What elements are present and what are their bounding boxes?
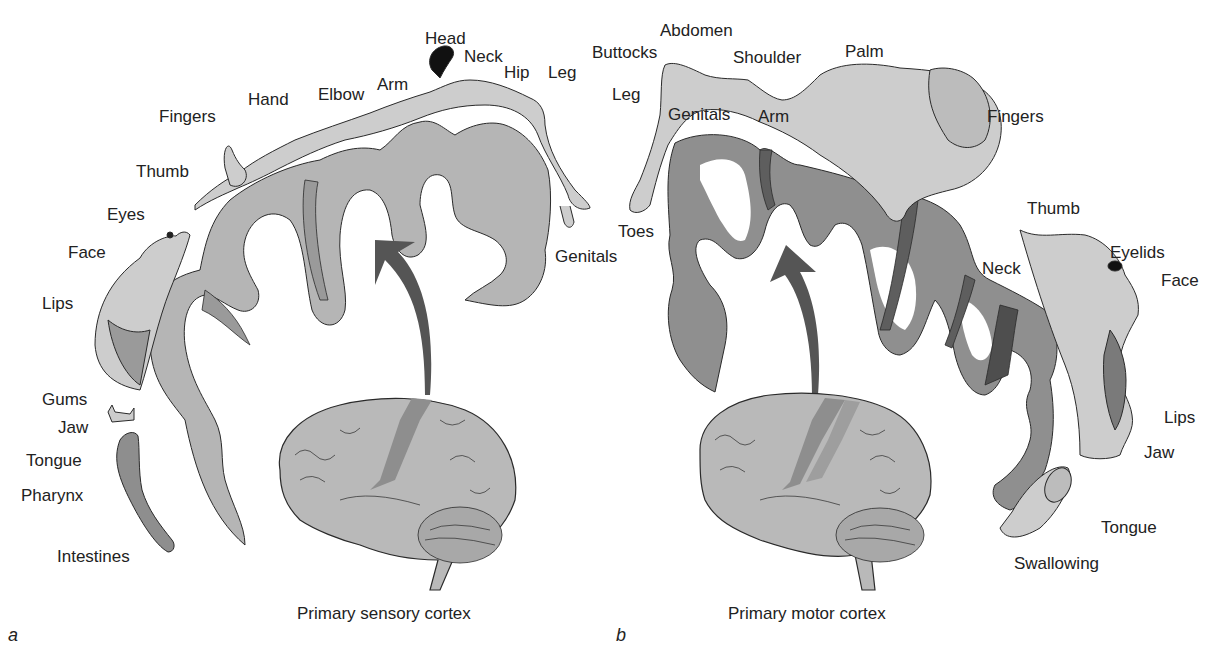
body-part-label: Arm: [377, 76, 408, 93]
body-part-label: Shoulder: [733, 49, 801, 66]
body-part-label: Head: [425, 30, 466, 47]
body-part-label: Intestines: [57, 548, 130, 565]
sensory-arrow: [375, 240, 431, 395]
body-part-label: Hip: [504, 64, 530, 81]
body-part-label: Toes: [618, 223, 654, 240]
motor-caption: Primary motor cortex: [728, 604, 886, 624]
body-part-label: Hand: [248, 91, 289, 108]
body-part-label: Thumb: [136, 163, 189, 180]
body-part-label: Genitals: [668, 106, 730, 123]
motor-arrow: [770, 245, 819, 395]
motor-brain: [700, 393, 931, 590]
body-part-label: Lips: [42, 295, 73, 312]
body-part-label: Face: [1161, 272, 1199, 289]
body-part-label: Arm: [758, 108, 789, 125]
body-part-label: Eyelids: [1110, 244, 1165, 261]
body-part-label: Palm: [845, 43, 884, 60]
body-part-label: Jaw: [1144, 444, 1174, 461]
panel-letter-a: a: [8, 625, 18, 646]
body-part-label: Abdomen: [660, 22, 733, 39]
sensory-brain: [279, 398, 515, 590]
body-part-label: Eyes: [107, 206, 145, 223]
body-part-label: Thumb: [1027, 200, 1080, 217]
body-part-label: Jaw: [58, 419, 88, 436]
panel-letter-b: b: [616, 625, 626, 646]
body-part-label: Buttocks: [592, 44, 657, 61]
body-part-label: Fingers: [159, 108, 216, 125]
body-part-label: Neck: [982, 260, 1021, 277]
body-part-label: Genitals: [555, 248, 617, 265]
body-part-label: Lips: [1164, 409, 1195, 426]
body-part-label: Gums: [42, 391, 87, 408]
homunculus-figure: HeadNeckHipLegArmElbowHandFingersThumbEy…: [0, 0, 1226, 656]
body-part-label: Leg: [612, 86, 640, 103]
body-part-label: Pharynx: [21, 487, 83, 504]
body-part-label: Elbow: [318, 86, 364, 103]
sensory-caption: Primary sensory cortex: [297, 604, 471, 624]
body-part-label: Tongue: [26, 452, 82, 469]
body-part-label: Face: [68, 244, 106, 261]
body-part-label: Neck: [464, 48, 503, 65]
body-part-label: Tongue: [1101, 519, 1157, 536]
body-part-label: Swallowing: [1014, 555, 1099, 572]
body-part-label: Leg: [548, 64, 576, 81]
body-part-label: Fingers: [987, 108, 1044, 125]
